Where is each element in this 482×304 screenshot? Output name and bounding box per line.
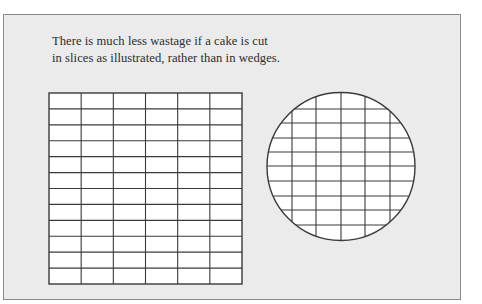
square-cake-grid [49, 93, 242, 284]
round-cake-grid [267, 93, 415, 241]
cake-cutting-diagram [0, 0, 482, 304]
